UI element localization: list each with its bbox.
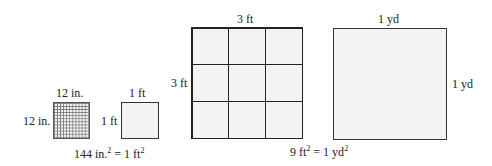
equation-1-left: 144 in. (74, 147, 107, 161)
square-inches-top-label: 12 in. (56, 87, 83, 99)
square-yard-box (333, 28, 447, 140)
square-inches-side-label: 12 in. (23, 115, 50, 127)
square-feet-side-label: 3 ft (171, 77, 187, 89)
square-yard-top-label: 1 yd (378, 13, 399, 25)
grid-cell (228, 64, 266, 102)
equation-1-right-exp: 2 (140, 146, 144, 155)
grid-cell (192, 101, 230, 139)
equation-2-right-exp: 2 (344, 144, 348, 153)
square-inch-grid (53, 102, 90, 139)
grid-cell (192, 28, 230, 66)
equation-1-mid: = 1 ft (111, 147, 140, 161)
equation-feet-to-yard: 9 ft2 = 1 yd2 (290, 146, 348, 158)
square-feet-top-label: 3 ft (237, 13, 253, 25)
square-foot-box (121, 102, 159, 139)
equation-2-mid: = 1 yd (310, 145, 344, 159)
equation-inches-to-feet: 144 in.2 = 1 ft2 (74, 148, 144, 160)
grid-cell (228, 28, 266, 66)
grid-cell (265, 101, 303, 139)
square-yard-side-label: 1 yd (452, 78, 473, 90)
grid-cell (228, 101, 266, 139)
equation-2-left: 9 ft (290, 145, 306, 159)
grid-cell (265, 28, 303, 66)
square-feet-grid (191, 27, 303, 139)
grid-cell (192, 64, 230, 102)
square-foot-top-label: 1 ft (129, 87, 145, 99)
grid-cell (265, 64, 303, 102)
square-foot-side-label: 1 ft (101, 115, 117, 127)
